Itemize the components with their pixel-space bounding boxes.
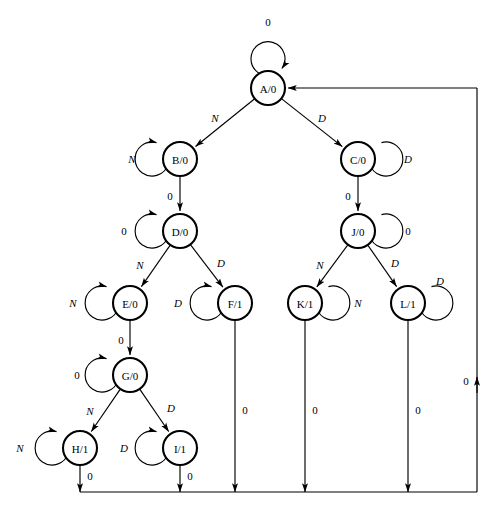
edge-label-d-e: N (135, 259, 144, 271)
edge-g-to-h (91, 389, 120, 431)
edge-label-d-f: D (216, 257, 225, 269)
return-label-l: 0 (415, 404, 421, 416)
state-label-i: I/1 (174, 443, 186, 455)
state-node-i[interactable]: I/1 (163, 431, 197, 465)
edge-label-a-c: D (317, 112, 326, 124)
state-label-a: A/0 (260, 83, 277, 95)
self-loop-label-e: N (68, 297, 77, 309)
fsm-canvas: A/0B/0C/0D/0J/0E/0F/1K/1L/1G/0H/1I/1 0ND… (0, 0, 499, 520)
edge-a-to-b (196, 99, 255, 146)
state-label-g: G/0 (122, 370, 139, 382)
return-label-i: 0 (187, 470, 193, 482)
state-label-l: L/1 (400, 298, 415, 310)
state-label-c: C/0 (350, 154, 366, 166)
state-label-b: B/0 (172, 154, 188, 166)
edge-label-j-k: N (315, 259, 324, 271)
edge-d-to-e (141, 245, 170, 286)
return-bus-label: 0 (463, 375, 469, 387)
self-loop-label-b: N (127, 153, 136, 165)
state-node-j[interactable]: J/0 (341, 214, 375, 248)
edge-g-to-i (140, 389, 169, 431)
state-node-e[interactable]: E/0 (113, 286, 147, 320)
edge-label-g-i: D (166, 402, 175, 414)
state-label-f: F/1 (228, 298, 243, 310)
state-label-k: K/1 (297, 298, 314, 310)
self-loop-label-c: D (403, 153, 412, 165)
self-loop-label-g: 0 (74, 369, 80, 381)
state-label-h: H/1 (72, 443, 89, 455)
self-loop-label-h: N (15, 442, 24, 454)
state-node-c[interactable]: C/0 (341, 142, 375, 176)
state-label-d: D/0 (172, 226, 189, 238)
state-node-k[interactable]: K/1 (288, 286, 322, 320)
state-label-e: E/0 (122, 298, 138, 310)
self-loop-label-a: 0 (265, 16, 271, 28)
self-loop-label-f: D (173, 297, 182, 309)
self-loop-label-l: D (435, 275, 444, 287)
state-node-f[interactable]: F/1 (218, 286, 252, 320)
return-label-h: 0 (87, 470, 93, 482)
self-loop-label-k: N (353, 297, 362, 309)
edge-label-e-g: 0 (118, 334, 124, 346)
self-loop-label-j: 0 (405, 225, 411, 237)
self-loop-layer (35, 42, 453, 465)
self-loop-label-d: 0 (121, 225, 127, 237)
state-node-d[interactable]: D/0 (163, 214, 197, 248)
edge-label-layer: 0ND00NDND0NDND00NDND0ND000000 (15, 16, 469, 482)
edge-label-g-h: N (85, 405, 94, 417)
return-label-f: 0 (242, 404, 248, 416)
return-label-k: 0 (312, 404, 318, 416)
state-node-b[interactable]: B/0 (163, 142, 197, 176)
state-node-h[interactable]: H/1 (63, 431, 97, 465)
edge-label-b-d: 0 (167, 190, 173, 202)
edge-label-j-l: D (390, 257, 399, 269)
self-loop-label-i: D (119, 442, 128, 454)
edge-a-to-c (282, 99, 343, 147)
state-machine-diagram: A/0B/0C/0D/0J/0E/0F/1K/1L/1G/0H/1I/1 0ND… (0, 0, 499, 520)
state-node-a[interactable]: A/0 (251, 71, 285, 105)
edge-label-c-j: 0 (345, 190, 351, 202)
state-node-g[interactable]: G/0 (113, 358, 147, 392)
state-node-l[interactable]: L/1 (391, 286, 425, 320)
edge-label-a-b: N (210, 112, 219, 124)
state-label-j: J/0 (352, 226, 365, 238)
